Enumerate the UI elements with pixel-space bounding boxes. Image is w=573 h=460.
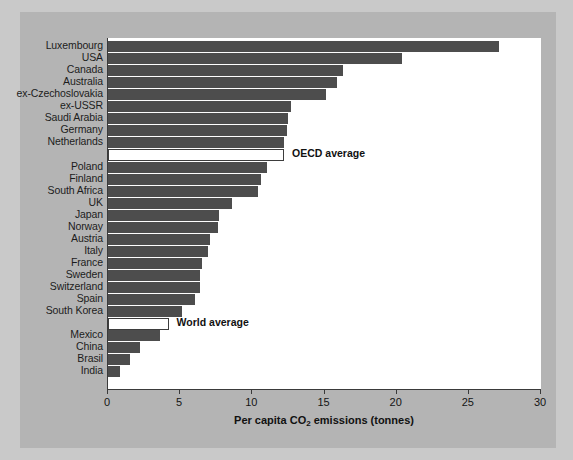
average-annotation: OECD average <box>292 147 365 159</box>
category-label: Brasil <box>77 352 103 364</box>
category-label: China <box>76 340 103 352</box>
country-bar <box>108 306 182 317</box>
country-bar <box>108 174 261 185</box>
category-label: USA <box>82 51 103 63</box>
x-tick-label: 0 <box>104 396 110 408</box>
country-bar <box>108 342 140 353</box>
bar-row: ex-USSR <box>108 101 541 112</box>
category-label: South Africa <box>48 184 103 196</box>
country-bar <box>108 77 337 88</box>
category-label: Poland <box>71 160 103 172</box>
category-label: Finland <box>69 172 103 184</box>
x-tick <box>468 389 469 394</box>
country-bar <box>108 330 160 341</box>
country-bar <box>108 282 200 293</box>
bar-row: Poland <box>108 162 541 173</box>
bar-row: South Korea <box>108 306 541 317</box>
category-label: Canada <box>67 63 103 75</box>
category-label: Mexico <box>70 328 103 340</box>
x-axis-title: Per capita CO2 emissions (tonnes) <box>107 414 541 426</box>
bar-row: Japan <box>108 210 541 221</box>
x-tick <box>540 389 541 394</box>
category-label: Italy <box>84 244 103 256</box>
x-axis: 051015202530 <box>107 389 541 390</box>
country-bar <box>108 366 120 377</box>
country-bar <box>108 89 326 100</box>
category-label: Australia <box>63 75 103 87</box>
bar-row: Australia <box>108 77 541 88</box>
bar-row: Switzerland <box>108 282 541 293</box>
x-tick-label: 30 <box>534 396 546 408</box>
category-label: France <box>71 256 103 268</box>
x-tick <box>107 389 108 394</box>
bar-row: Luxembourg <box>108 41 541 52</box>
category-label: India <box>81 364 103 376</box>
chart-panel: LuxembourgUSACanadaAustraliaex-Czechoslo… <box>20 12 556 448</box>
average-row: OECD average <box>108 149 541 160</box>
category-label: UK <box>89 196 103 208</box>
bar-row: Italy <box>108 246 541 257</box>
category-label: Switzerland <box>50 280 103 292</box>
average-row: World average <box>108 318 541 329</box>
bar-row: ex-Czechoslovakia <box>108 89 541 100</box>
country-bar <box>108 101 291 112</box>
bar-row: China <box>108 342 541 353</box>
category-label: ex-Czechoslovakia <box>17 87 103 99</box>
x-tick <box>396 389 397 394</box>
bar-row: Finland <box>108 174 541 185</box>
average-bar <box>108 149 284 161</box>
bar-row: Spain <box>108 294 541 305</box>
x-tick-label: 10 <box>245 396 257 408</box>
country-bar <box>108 222 218 233</box>
bar-row: Sweden <box>108 270 541 281</box>
bar-row: India <box>108 366 541 377</box>
category-label: Norway <box>68 220 103 232</box>
category-label: ex-USSR <box>60 99 103 111</box>
country-bar <box>108 65 343 76</box>
category-label: Netherlands <box>47 135 103 147</box>
category-label: Sweden <box>66 268 103 280</box>
bar-row: UK <box>108 198 541 209</box>
category-label: Austria <box>71 232 103 244</box>
x-tick-label: 15 <box>317 396 329 408</box>
x-tick <box>251 389 252 394</box>
bar-row: Germany <box>108 125 541 136</box>
x-tick-label: 20 <box>390 396 402 408</box>
category-label: South Korea <box>46 304 103 316</box>
x-tick <box>324 389 325 394</box>
x-tick <box>179 389 180 394</box>
category-label: Saudi Arabia <box>45 111 103 123</box>
x-axis-title-post: emissions (tonnes) <box>311 414 414 426</box>
plot-area: LuxembourgUSACanadaAustraliaex-Czechoslo… <box>107 38 541 389</box>
category-label: Spain <box>77 292 103 304</box>
average-bar <box>108 318 169 330</box>
bar-row: Brasil <box>108 354 541 365</box>
bar-row: Austria <box>108 234 541 245</box>
x-axis-title-subscript: 2 <box>306 419 310 428</box>
country-bar <box>108 137 284 148</box>
country-bar <box>108 53 402 64</box>
bar-rows: LuxembourgUSACanadaAustraliaex-Czechoslo… <box>108 38 541 389</box>
country-bar <box>108 198 232 209</box>
average-annotation: World average <box>177 316 249 328</box>
country-bar <box>108 258 202 269</box>
country-bar <box>108 125 287 136</box>
x-tick-label: 5 <box>176 396 182 408</box>
chart-screenshot: LuxembourgUSACanadaAustraliaex-Czechoslo… <box>0 0 573 460</box>
bar-row: Canada <box>108 65 541 76</box>
bar-row: USA <box>108 53 541 64</box>
bar-row: Mexico <box>108 330 541 341</box>
country-bar <box>108 294 195 305</box>
category-label: Luxembourg <box>46 39 103 51</box>
country-bar <box>108 186 258 197</box>
x-tick-label: 25 <box>462 396 474 408</box>
country-bar <box>108 113 288 124</box>
country-bar <box>108 41 499 52</box>
bar-row: South Africa <box>108 186 541 197</box>
country-bar <box>108 270 200 281</box>
bar-row: France <box>108 258 541 269</box>
country-bar <box>108 234 210 245</box>
bar-row: Norway <box>108 222 541 233</box>
country-bar <box>108 354 130 365</box>
country-bar <box>108 246 208 257</box>
